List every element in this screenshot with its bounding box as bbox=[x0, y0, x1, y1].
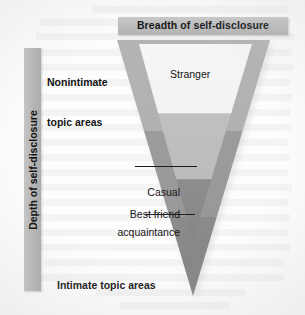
casual-label-line1: Casual bbox=[94, 186, 180, 199]
intimate-topic-areas-label: Intimate topic areas bbox=[57, 279, 156, 292]
inverted-triangle-wedge bbox=[0, 0, 305, 315]
casual-label-line2: acquaintance bbox=[94, 226, 180, 239]
nonintimate-topic-areas-label: Nonintimate topic areas bbox=[47, 50, 108, 155]
nonintimate-label-line2: topic areas bbox=[47, 116, 108, 129]
breadth-axis-bar: Breadth of self-disclosure bbox=[118, 17, 288, 35]
nonintimate-label-line1: Nonintimate bbox=[47, 76, 108, 89]
best-friend-leader-line bbox=[145, 214, 195, 215]
casual-acquaintance-leader-line bbox=[135, 166, 197, 167]
stranger-level-label: Stranger bbox=[170, 68, 210, 81]
figure-canvas: Breadth of self-disclosure Depth of self… bbox=[0, 0, 305, 315]
breadth-axis-label: Breadth of self-disclosure bbox=[118, 19, 288, 31]
depth-axis-bar: Depth of self-disclosure bbox=[24, 48, 41, 291]
depth-axis-label: Depth of self-disclosure bbox=[27, 110, 39, 230]
